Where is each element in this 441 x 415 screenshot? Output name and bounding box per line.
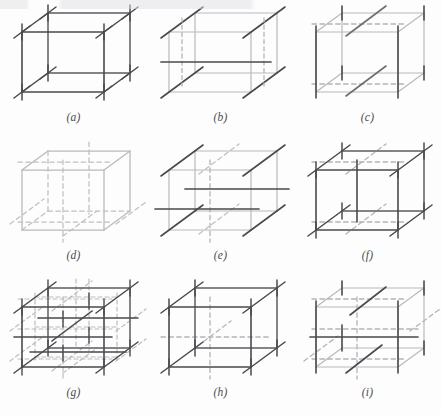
panel-e-drawing [147, 138, 294, 250]
panel-f-drawing [294, 138, 441, 250]
panel-d: (d) [0, 138, 147, 275]
panel-c-caption: (c) [361, 111, 374, 123]
panel-b-drawing [147, 0, 294, 112]
panel-e: (e) [147, 138, 294, 275]
panel-b: (b) [147, 0, 294, 138]
panel-i-drawing [294, 275, 441, 387]
panel-c-drawing [294, 0, 441, 112]
panel-a-drawing [0, 0, 147, 112]
panel-g-drawing [0, 275, 147, 387]
panel-c: (c) [294, 0, 441, 138]
panel-b-caption: (b) [213, 111, 227, 123]
panel-g-caption: (g) [66, 386, 80, 398]
panel-h-drawing [147, 275, 294, 387]
panel-i: (i) [294, 275, 441, 415]
panel-h-caption: (h) [213, 386, 227, 398]
panel-f-caption: (f) [362, 249, 373, 261]
panel-h: (h) [147, 275, 294, 415]
panel-f: (f) [294, 138, 441, 275]
panel-e-caption: (e) [214, 249, 227, 261]
panel-d-caption: (d) [66, 249, 80, 261]
panel-d-drawing [0, 138, 147, 250]
figure-grid: (a) [0, 0, 441, 415]
panel-a: (a) [0, 0, 147, 138]
panel-a-caption: (a) [66, 111, 80, 123]
panel-i-caption: (i) [362, 386, 373, 398]
panel-g: (g) [0, 275, 147, 415]
